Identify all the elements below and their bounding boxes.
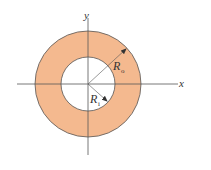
outer-radius-label: R xyxy=(112,59,121,73)
inner-radius-subscript: i xyxy=(98,100,100,108)
y-axis-label: y xyxy=(83,9,89,21)
outer-radius-subscript: o xyxy=(121,67,125,75)
x-axis-label: x xyxy=(178,77,184,89)
annulus-diagram: y x R o R i xyxy=(0,0,211,170)
inner-radius-label: R xyxy=(89,92,98,106)
